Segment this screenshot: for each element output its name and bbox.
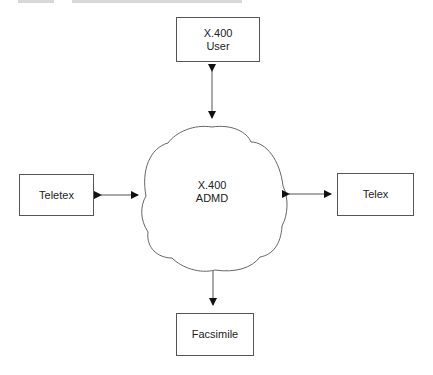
cloud-label-line2: ADMD [182,192,242,205]
node-label: Teletex [39,189,74,202]
node-teletex: Teletex [19,174,94,216]
admd-cloud-label: X.400 ADMD [182,179,242,205]
node-x400-user: X.400 User [176,17,260,62]
node-facsimile: Facsimile [176,313,254,356]
node-label-line2: User [206,40,229,53]
node-label: Facsimile [192,328,238,341]
node-telex: Telex [337,173,414,216]
cloud-label-line1: X.400 [182,179,242,192]
node-label-line1: X.400 [204,27,233,40]
node-label: Telex [363,188,389,201]
